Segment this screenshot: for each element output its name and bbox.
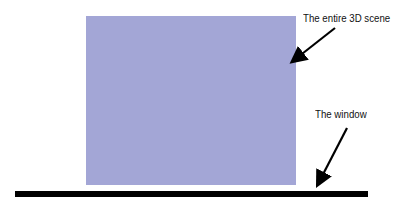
window-arrow-icon [318,128,347,184]
scene-arrow-icon [293,28,335,61]
arrows [0,0,418,204]
